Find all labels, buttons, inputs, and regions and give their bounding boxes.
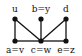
- node-label-d: d: [63, 5, 69, 14]
- node-label-by: b=y: [32, 5, 50, 14]
- node-av: [12, 38, 17, 43]
- edge-u-cw: [15, 19, 41, 41]
- edges: [15, 19, 66, 41]
- node-cw: [38, 38, 43, 43]
- node-label-ez: e=z: [57, 46, 75, 55]
- node-by: [38, 16, 43, 21]
- node-u: [12, 16, 17, 21]
- node-label-cw: c=w: [31, 46, 51, 55]
- node-label-av: a=v: [6, 46, 24, 55]
- node-label-u: u: [12, 5, 18, 14]
- edge-d-cw: [41, 19, 66, 41]
- node-ez: [63, 38, 68, 43]
- node-d: [63, 16, 68, 21]
